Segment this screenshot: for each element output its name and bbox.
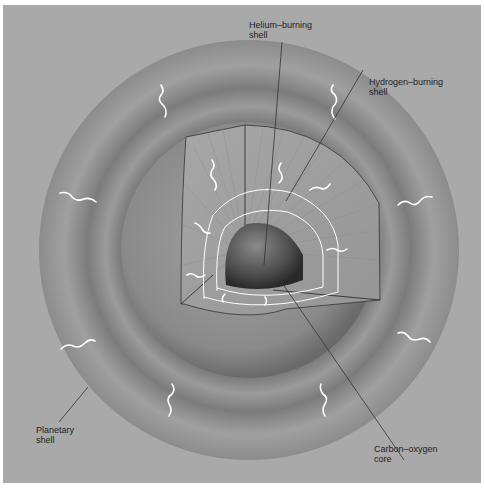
hydrogen-burning-shell-label: Hydrogen–burning shell [369, 77, 443, 97]
planetary-shell-label: Planetary shell [36, 425, 74, 445]
helium-burning-shell-label: Helium–burning shell [249, 20, 312, 40]
carbon-oxygen-core-label: Carbon–oxygen core [374, 444, 438, 464]
diagram-stage: Helium–burning shell Hydrogen–burning sh… [3, 5, 481, 483]
